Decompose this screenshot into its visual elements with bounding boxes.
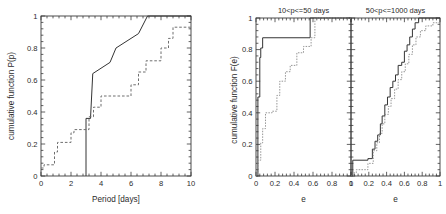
y-tick-label: 1 <box>248 14 252 23</box>
y-tick-label: 0 <box>248 172 252 181</box>
y-tick-label: 0.4 <box>27 108 38 117</box>
ecc-axes: 00.20.40.60.8100.20.40.60.8100.20.40.60.… <box>242 14 442 188</box>
x-tick-label: 2 <box>69 179 73 188</box>
x-tick-label: 6 <box>129 179 133 188</box>
x-tick-label: 0.2 <box>270 179 281 188</box>
panel-period-cdf: 024681000.20.40.60.81 Period [days] cumu… <box>0 0 223 214</box>
x-axis-title-long-period: e <box>393 195 398 204</box>
x-tick-label: 8 <box>159 179 163 188</box>
y-tick-label: 1 <box>33 12 37 21</box>
ecc-curves <box>256 18 440 176</box>
y-axis-title: cumulative function P(p) <box>7 52 16 140</box>
x-tick-label: 0.4 <box>289 179 300 188</box>
y-tick-label: 0.6 <box>242 77 253 86</box>
x-tick-label: 1 <box>438 179 442 188</box>
series-solid <box>256 18 351 176</box>
x-tick-label: 0.2 <box>364 179 375 188</box>
plot-frame <box>41 16 191 176</box>
x-tick-label: 0 <box>349 179 353 188</box>
series-dotted <box>256 18 351 176</box>
period-curves <box>41 16 191 176</box>
series-solid <box>351 18 440 176</box>
x-tick-label: 0.6 <box>308 179 319 188</box>
x-axis-title: Period [days] <box>92 195 140 204</box>
period-axis-labels: Period [days] cumulative function P(p) <box>7 52 140 204</box>
y-tick-label: 0.2 <box>242 140 253 149</box>
x-tick-label: 0.8 <box>417 179 428 188</box>
x-tick-label: 4 <box>99 179 103 188</box>
x-tick-label: 0.8 <box>327 179 338 188</box>
series-dotted <box>351 23 440 176</box>
x-tick-label: 0.4 <box>381 179 392 188</box>
ecc-axis-labels: 10<p<=50 days 50<p<=1000 days e e cumula… <box>230 6 425 204</box>
x-tick-label: 10 <box>187 179 195 188</box>
x-tick-label: 0 <box>254 179 258 188</box>
subpanel-title-long-period: 50<p<=1000 days <box>366 6 426 15</box>
subpanel-title-short-period: 10<p<=50 days <box>278 6 329 15</box>
y-tick-label: 0.2 <box>27 140 38 149</box>
panel-eccentricity-cdf: 00.20.40.60.8100.20.40.60.8100.20.40.60.… <box>223 0 446 214</box>
y-tick-label: 0.6 <box>27 76 38 85</box>
period-cdf-svg: 024681000.20.40.60.81 Period [days] cumu… <box>0 0 223 214</box>
x-tick-label: 0.6 <box>399 179 410 188</box>
y-tick-label: 0.8 <box>27 44 38 53</box>
y-tick-label: 0.8 <box>242 45 253 54</box>
x-tick-label: 0 <box>39 179 43 188</box>
plot-frame <box>256 18 351 176</box>
plot-frame <box>351 18 440 176</box>
y-tick-label: 0 <box>33 172 37 181</box>
x-axis-title-short-period: e <box>301 195 306 204</box>
y-axis-title-ecc: cumulative function F(e) <box>230 56 239 144</box>
ecc-cdf-svg: 00.20.40.60.8100.20.40.60.8100.20.40.60.… <box>223 0 446 214</box>
y-tick-label: 0.4 <box>242 109 253 118</box>
figure-canvas: 024681000.20.40.60.81 Period [days] cumu… <box>0 0 446 214</box>
